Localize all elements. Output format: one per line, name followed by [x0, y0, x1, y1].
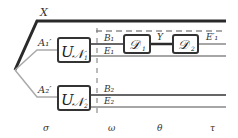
- label-a2: A₂′: [37, 84, 52, 95]
- box-d2-index: 2: [190, 45, 195, 52]
- box-u-n1: U 𝒩 1: [58, 38, 90, 62]
- quantum-circuit-diagram: X A₁′ A₂′ B₁ E₁ B₂ E₂ Y E′₁ U 𝒩 1 U 𝒩 2 …: [0, 0, 238, 138]
- label-e2: E₂: [103, 96, 115, 106]
- stage-label-omega: ω: [108, 123, 116, 133]
- box-d1: 𝒟 1: [124, 35, 150, 53]
- label-e1: E₁: [103, 46, 114, 56]
- box-u-n2-index: 2: [83, 102, 88, 109]
- stage-label-sigma: σ: [43, 123, 50, 133]
- label-b2: B₂: [103, 84, 115, 94]
- box-d2: 𝒟 2: [173, 35, 198, 53]
- label-b1: B₁: [103, 33, 114, 43]
- box-u-n1-index: 1: [84, 54, 88, 61]
- label-e1-prime: E′₁: [205, 32, 218, 42]
- label-a1: A₁′: [37, 37, 52, 48]
- wire-a2: [15, 70, 58, 97]
- box-d1-index: 1: [142, 45, 146, 52]
- stage-label-tau: τ: [210, 123, 216, 133]
- stage-label-theta: θ: [157, 123, 163, 133]
- label-x: X: [39, 6, 49, 19]
- label-y: Y: [157, 32, 164, 42]
- box-u-n2: U 𝒩 2: [58, 86, 90, 110]
